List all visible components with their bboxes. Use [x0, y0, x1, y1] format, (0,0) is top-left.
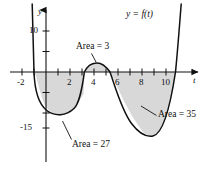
x-tick-label--2: -2: [17, 78, 25, 87]
x-axis-label: t: [193, 76, 196, 85]
function-label: y = f(t): [126, 10, 153, 20]
shaded-region-area-27: [34, 72, 84, 116]
leader-line-area-3: [92, 54, 97, 63]
annotation-area-35: Area = 35: [158, 110, 196, 120]
leader-line-area-27: [63, 121, 72, 140]
annotation-area-27: Area = 27: [72, 140, 110, 150]
x-tick-label-2: 2: [67, 78, 72, 87]
annotation-area-3: Area = 3: [76, 42, 109, 52]
x-tick-label-6: 6: [115, 78, 120, 87]
y-tick-label-10: 10: [29, 26, 38, 35]
y-axis-label: y: [38, 7, 42, 16]
x-tick-label-8: 8: [139, 78, 144, 87]
x-tick-label-10: 10: [161, 78, 170, 87]
y-tick-label--15: -15: [20, 123, 32, 132]
x-tick-label-4: 4: [91, 78, 96, 87]
